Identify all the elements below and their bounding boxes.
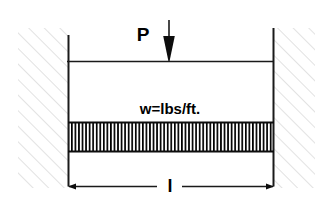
distributed-load-label: w=lbs/ft. (139, 100, 200, 117)
distributed-load-block (68, 122, 274, 152)
distributed-load-hatching (69, 122, 273, 152)
beam-diagram-figure: P w=lbs/ft. l (0, 0, 324, 221)
span-label: l (167, 176, 172, 196)
point-load-arrow (163, 20, 175, 61)
right-wall-hatching (273, 28, 315, 188)
point-load-label: P (137, 24, 150, 45)
point-load-arrowhead (163, 36, 175, 61)
beam-diagram-svg: P w=lbs/ft. l (0, 0, 324, 221)
left-wall-hatching (18, 28, 68, 188)
right-fixed-support (273, 28, 315, 188)
left-fixed-support (18, 28, 69, 188)
